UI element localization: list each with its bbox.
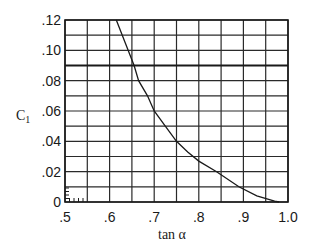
- y-tick-label: .06: [42, 103, 62, 119]
- y-tick-label: 0: [53, 194, 61, 210]
- x-tick-labels: .5.6.7.8.91.0: [59, 209, 298, 225]
- x-tick-label: .5: [59, 209, 71, 225]
- x-tick-label: .7: [148, 209, 160, 225]
- x-tick-label: .6: [104, 209, 116, 225]
- grid: [65, 20, 288, 202]
- y-tick-label: .08: [42, 73, 62, 89]
- y-tick-labels: 0.02.04.06.08.10.12: [42, 12, 62, 210]
- x-tick-label: 1.0: [278, 209, 298, 225]
- y-tick-label: .10: [42, 42, 62, 58]
- y-tick-label: .02: [42, 164, 62, 180]
- origin-minor-ticks: [65, 188, 83, 202]
- x-tick-label: .8: [193, 209, 205, 225]
- y-tick-label: .12: [42, 12, 62, 28]
- x-tick-label: .9: [238, 209, 250, 225]
- y-axis-label: C1: [16, 108, 30, 125]
- chart: 0.02.04.06.08.10.12 .5.6.7.8.91.0 C1 tan…: [0, 0, 310, 246]
- y-tick-label: .04: [42, 133, 62, 149]
- x-axis-label: tan α: [158, 227, 187, 242]
